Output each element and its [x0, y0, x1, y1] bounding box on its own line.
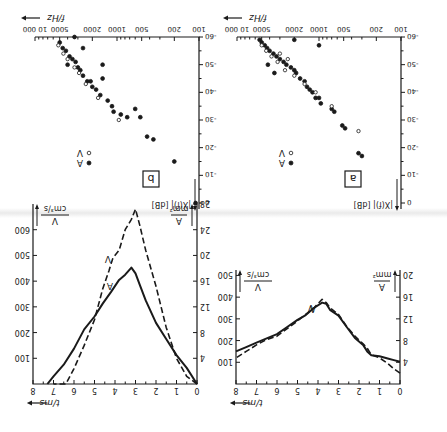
y-right-tick-label: 100	[15, 353, 30, 362]
curve-label-V: V	[307, 303, 314, 313]
series-A-line	[47, 268, 197, 384]
x-tick-label: 0	[194, 386, 199, 395]
y-tick-label: 0	[205, 198, 209, 206]
legend-marker-V	[289, 151, 293, 155]
chart-time-right: 012345678481216202428100200300400500600t…	[15, 199, 210, 408]
x-tick-label: 4	[112, 386, 117, 395]
data-point-A	[66, 63, 70, 67]
x-tick-label: 500	[337, 25, 350, 33]
y-left-tick-label: 20	[403, 270, 413, 279]
y-tick-label: -20	[407, 143, 418, 151]
data-point-A	[152, 138, 156, 142]
y-left-tick-label: 24	[200, 225, 210, 234]
legend-marker-A	[87, 161, 91, 165]
data-point-V	[357, 129, 360, 132]
y-left-tick-label: 20	[200, 250, 210, 259]
data-point-A	[266, 63, 270, 67]
x-axis-arrowhead	[230, 401, 235, 406]
data-point-A	[133, 107, 137, 111]
data-point-A	[81, 74, 85, 78]
y-tick-label: -20	[205, 143, 216, 151]
x-tick-label: 1000	[310, 25, 328, 33]
y-tick-label: -30	[407, 115, 418, 123]
y-right-tick-label: 400	[218, 292, 233, 301]
y-right-tick-label: 100	[218, 357, 233, 366]
x-tick-label: 5	[92, 386, 97, 395]
legend-label-V: V	[278, 148, 285, 158]
data-point-A	[112, 110, 116, 114]
y-tick-label: -50	[407, 60, 418, 68]
y-right-tick-label: 300	[15, 302, 30, 311]
y-right-tick-label: 300	[218, 314, 233, 323]
data-point-V	[286, 57, 289, 60]
data-point-V	[314, 91, 317, 94]
y-left-label-num: A	[378, 282, 385, 292]
legend-label-V: V	[76, 148, 83, 158]
data-point-V	[330, 105, 333, 108]
series-V-line	[54, 209, 198, 384]
curve-label-A: A	[106, 281, 113, 291]
data-point-A	[94, 88, 98, 92]
panel-label: a	[350, 172, 357, 185]
x-axis-label: f/Hz	[249, 13, 267, 23]
data-point-A	[289, 66, 293, 70]
y-right-tick-label: 200	[15, 328, 30, 337]
data-point-V	[276, 60, 279, 63]
y-right-label-den: cm³/s	[44, 204, 66, 213]
data-point-A	[273, 71, 277, 75]
data-point-A	[340, 124, 344, 128]
y-right-arrowhead	[238, 270, 242, 275]
series-V-line	[236, 299, 400, 373]
y-tick-label: 0	[407, 198, 411, 206]
y-right-label-num: V	[51, 216, 58, 226]
data-point-A	[90, 85, 94, 89]
y-left-tick-label: 8	[200, 328, 205, 337]
x-tick-label: 10 000	[225, 25, 250, 33]
x-tick-label: 100	[192, 25, 205, 33]
y-tick-label: -30	[205, 115, 216, 123]
data-point-V	[260, 44, 263, 47]
data-point-A	[110, 104, 114, 108]
data-point-A	[292, 68, 296, 72]
data-point-V	[293, 74, 296, 77]
x-tick-label: 10 000	[23, 25, 48, 33]
y-right-label-num: V	[254, 282, 261, 292]
x-tick-label: 8	[233, 386, 238, 395]
data-point-A	[61, 46, 65, 50]
data-point-A	[101, 63, 105, 67]
data-point-V	[77, 71, 80, 74]
data-point-A	[319, 102, 323, 106]
data-point-V	[66, 57, 69, 60]
x-tick-label: 5000	[253, 25, 271, 33]
y-right-tick-label: 400	[15, 276, 30, 285]
data-point-A	[317, 43, 321, 47]
data-point-A	[194, 201, 198, 205]
x-tick-label: 200	[370, 25, 383, 33]
y-left-tick-label: 16	[403, 292, 413, 301]
data-point-V	[278, 52, 281, 55]
y-right-arrowhead	[35, 204, 39, 209]
x-tick-label: 8	[30, 386, 35, 395]
data-point-A	[298, 77, 302, 81]
y-right-tick-label: 500	[218, 270, 233, 279]
legend-marker-A	[289, 161, 293, 165]
y-left-tick-label: 4	[403, 357, 408, 366]
x-tick-label: 3	[336, 386, 341, 395]
data-point-A	[275, 55, 279, 59]
data-point-A	[292, 38, 296, 42]
panel-label: b	[147, 172, 154, 185]
x-tick-label: 5000	[51, 25, 69, 33]
legend-label-A: A	[76, 158, 83, 168]
y-left-tick-label: 8	[403, 336, 408, 345]
x-tick-label: 2000	[285, 25, 303, 33]
data-point-A	[138, 115, 142, 119]
axes-frame	[35, 37, 199, 209]
x-tick-label: 5	[295, 386, 300, 395]
x-tick-label: 100	[394, 25, 407, 33]
data-point-A	[106, 99, 110, 103]
y-tick-label: -50	[205, 60, 216, 68]
axes-frame	[237, 37, 401, 209]
y-axis-label: |X(f)| [dB]	[354, 200, 393, 209]
x-tick-label: 1000	[108, 25, 126, 33]
data-point-A	[119, 113, 123, 117]
